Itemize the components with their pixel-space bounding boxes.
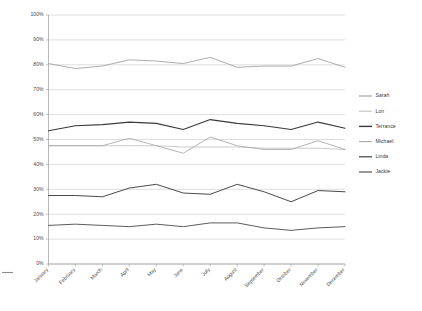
- y-axis-tick-label: 60%: [33, 111, 44, 117]
- chart-canvas: 0%10%20%30%40%50%60%70%80%90%100% Januar…: [0, 0, 422, 311]
- legend-item-label[interactable]: Sarah: [376, 92, 390, 98]
- y-axis-tick-label: 20%: [33, 211, 44, 217]
- y-axis-tick-label: 30%: [33, 186, 44, 192]
- legend-item-label[interactable]: Linda: [376, 153, 389, 159]
- y-axis-tick-label: 70%: [33, 86, 44, 92]
- y-axis-tick-label: 50%: [33, 136, 44, 142]
- y-axis-tick-label: 100%: [30, 11, 43, 17]
- legend-item-label[interactable]: Lon: [376, 108, 385, 114]
- y-axis-tick-label: 40%: [33, 161, 44, 167]
- legend-item-label[interactable]: Michael: [376, 138, 394, 144]
- y-axis-tick-label: 0%: [36, 260, 44, 266]
- y-axis-tick-label: 90%: [33, 36, 44, 42]
- legend-item-label[interactable]: Terrance: [376, 123, 396, 129]
- y-axis-tick-label: 80%: [33, 61, 44, 67]
- line-chart: 0%10%20%30%40%50%60%70%80%90%100% Januar…: [0, 0, 422, 311]
- legend-item-label[interactable]: Jackie: [376, 168, 391, 174]
- y-axis-tick-label: 10%: [33, 235, 44, 241]
